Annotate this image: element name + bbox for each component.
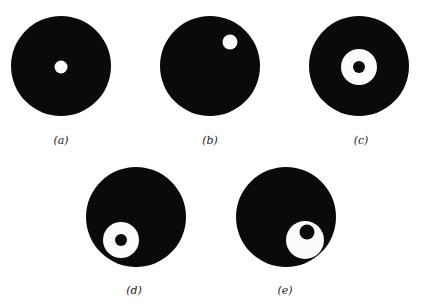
core (300, 225, 315, 240)
panel-a: (a) (11, 16, 111, 147)
panel-e: (e) (236, 167, 336, 297)
hole (55, 61, 68, 74)
core (115, 234, 127, 246)
hole (223, 35, 238, 50)
panel-d: (d) (86, 167, 186, 297)
caption-d: (d) (126, 284, 142, 297)
panel-b: (b) (160, 16, 260, 147)
core (353, 61, 365, 73)
caption-e: (e) (277, 284, 292, 297)
disc (86, 167, 186, 267)
disc (160, 16, 260, 116)
panel-c: (c) (309, 16, 409, 147)
caption-c: (c) (354, 134, 369, 147)
disc (236, 167, 336, 267)
figure: (a) (b) (c) (d) (e) (0, 0, 422, 304)
caption-a: (a) (53, 134, 68, 147)
caption-b: (b) (202, 134, 218, 147)
